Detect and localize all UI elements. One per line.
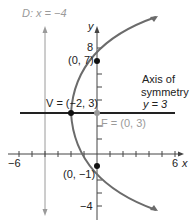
point-0-7 bbox=[94, 58, 100, 64]
x-axis-label: x bbox=[181, 157, 188, 169]
vertex-point bbox=[68, 110, 74, 116]
x-tick-neg6-label: −6 bbox=[8, 157, 21, 169]
vertex-label: V = (−2, 3) bbox=[46, 97, 98, 109]
axis-symmetry-label-3: y = 3 bbox=[142, 98, 168, 110]
y-tick-8-label: 8 bbox=[87, 41, 93, 53]
x-axis-arrow-icon bbox=[178, 152, 184, 157]
axis-symmetry-label-2: symmetry bbox=[141, 86, 189, 98]
point-0-7-label: (0, 7) bbox=[68, 54, 94, 66]
focus-point bbox=[94, 110, 100, 116]
directrix-label: D: x = −4 bbox=[22, 7, 67, 19]
parabola-chart: D: x = −4 y 8 (0, 7) Axis of symmetry y … bbox=[0, 0, 191, 223]
y-tick-neg4-label: −4 bbox=[80, 200, 93, 212]
directrix-arrow-up-icon bbox=[43, 26, 48, 33]
x-tick-6-label: 6 bbox=[172, 157, 178, 169]
axis-symmetry-label-1: Axis of bbox=[142, 73, 176, 85]
point-0-neg1-label: (0, −1) bbox=[63, 168, 95, 180]
y-axis-arrow-icon bbox=[95, 26, 100, 33]
focus-label: F = (0, 3) bbox=[101, 117, 146, 129]
directrix-arrow-down-icon bbox=[43, 209, 48, 216]
y-axis-label: y bbox=[87, 20, 95, 32]
